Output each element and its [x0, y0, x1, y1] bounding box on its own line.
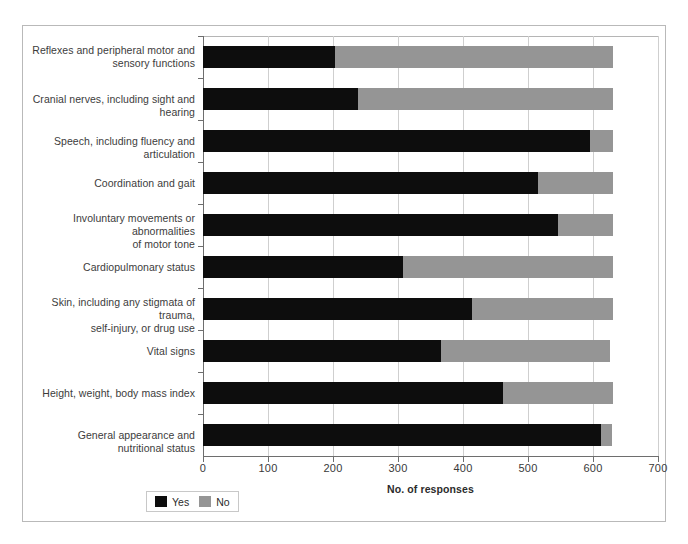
bar-segment-yes[interactable]	[203, 172, 538, 194]
bar-segment-yes[interactable]	[203, 46, 335, 68]
category-label: Cranial nerves, including sight and hear…	[30, 93, 195, 119]
bar-segment-yes[interactable]	[203, 214, 558, 236]
y-tick-mark	[198, 120, 204, 121]
y-tick-mark	[198, 288, 204, 289]
y-tick-mark	[198, 162, 204, 163]
bar-row: Cardiopulmonary status	[0, 246, 688, 288]
bar-row: Reflexes and peripheral motor andsensory…	[0, 36, 688, 78]
stacked-bar[interactable]	[203, 214, 613, 236]
category-label-line: sensory functions	[30, 57, 195, 70]
category-label-line: Involuntary movements or abnormalities	[30, 212, 195, 238]
category-label-line: Reflexes and peripheral motor and	[30, 44, 195, 57]
category-label: General appearance and nutritional statu…	[30, 429, 195, 455]
legend-item[interactable]: Yes	[155, 496, 189, 508]
category-label: Height, weight, body mass index	[30, 387, 195, 400]
x-tick-label: 700	[649, 462, 668, 474]
category-label: Vital signs	[30, 345, 195, 358]
category-label: Speech, including fluency and articulati…	[30, 135, 195, 161]
legend-swatch-icon	[199, 496, 211, 507]
bar-segment-no[interactable]	[590, 130, 613, 152]
category-label-line: Speech, including fluency and articulati…	[30, 135, 195, 161]
y-tick-mark	[198, 36, 204, 37]
x-tick-label: 500	[519, 462, 538, 474]
category-label-line: Height, weight, body mass index	[30, 387, 195, 400]
x-tick-label: 300	[389, 462, 408, 474]
plot-axis-x	[203, 456, 659, 457]
bar-segment-yes[interactable]	[203, 298, 472, 320]
bar-row: Skin, including any stigmata of trauma,s…	[0, 288, 688, 330]
category-label: Cardiopulmonary status	[30, 261, 195, 274]
legend-label: Yes	[172, 496, 189, 508]
stacked-bar[interactable]	[203, 46, 613, 68]
x-tick-label: 100	[259, 462, 278, 474]
chart-screenshot: 0100200300400500600700 No. of responses …	[0, 0, 688, 544]
bar-segment-no[interactable]	[601, 424, 612, 446]
category-label-line: Vital signs	[30, 345, 195, 358]
bar-segment-yes[interactable]	[203, 88, 358, 110]
y-tick-mark	[198, 372, 204, 373]
y-tick-mark	[198, 330, 204, 331]
bar-segment-no[interactable]	[441, 340, 610, 362]
stacked-bar[interactable]	[203, 424, 612, 446]
chart-legend: YesNo	[146, 491, 239, 512]
category-label: Coordination and gait	[30, 177, 195, 190]
bar-segment-yes[interactable]	[203, 424, 601, 446]
x-tick-label: 0	[200, 462, 206, 474]
bar-segment-no[interactable]	[558, 214, 613, 236]
bar-segment-no[interactable]	[403, 256, 613, 278]
stacked-bar[interactable]	[203, 88, 613, 110]
legend-item[interactable]: No	[199, 496, 229, 508]
x-axis-title: No. of responses	[203, 483, 658, 495]
bar-segment-no[interactable]	[358, 88, 613, 110]
stacked-bar[interactable]	[203, 256, 613, 278]
bar-segment-no[interactable]	[538, 172, 613, 194]
stacked-bar[interactable]	[203, 130, 613, 152]
y-tick-mark	[198, 414, 204, 415]
bar-row: Vital signs	[0, 330, 688, 372]
bar-row: Coordination and gait	[0, 162, 688, 204]
x-tick-label: 600	[584, 462, 603, 474]
bar-row: Speech, including fluency and articulati…	[0, 120, 688, 162]
bar-row: General appearance and nutritional statu…	[0, 414, 688, 456]
category-label-line: General appearance and nutritional statu…	[30, 429, 195, 455]
y-tick-mark	[198, 246, 204, 247]
category-label-line: Skin, including any stigmata of trauma,	[30, 296, 195, 322]
stacked-bar[interactable]	[203, 298, 613, 320]
stacked-bar[interactable]	[203, 340, 610, 362]
bar-row: Cranial nerves, including sight and hear…	[0, 78, 688, 120]
bar-segment-yes[interactable]	[203, 382, 503, 404]
category-label-line: Cardiopulmonary status	[30, 261, 195, 274]
bar-row: Height, weight, body mass index	[0, 372, 688, 414]
category-label: Reflexes and peripheral motor andsensory…	[30, 44, 195, 70]
x-tick-label: 400	[454, 462, 473, 474]
bar-row: Involuntary movements or abnormalitiesof…	[0, 204, 688, 246]
stacked-bar[interactable]	[203, 382, 613, 404]
y-tick-mark	[198, 204, 204, 205]
stacked-bar[interactable]	[203, 172, 613, 194]
bar-segment-no[interactable]	[335, 46, 613, 68]
bar-segment-yes[interactable]	[203, 256, 403, 278]
category-label-line: Cranial nerves, including sight and hear…	[30, 93, 195, 119]
x-tick-label: 200	[324, 462, 343, 474]
legend-swatch-icon	[155, 496, 167, 507]
bar-segment-no[interactable]	[472, 298, 613, 320]
bar-segment-yes[interactable]	[203, 340, 441, 362]
category-label-line: Coordination and gait	[30, 177, 195, 190]
bar-segment-no[interactable]	[503, 382, 613, 404]
bar-segment-yes[interactable]	[203, 130, 590, 152]
legend-label: No	[216, 496, 229, 508]
y-tick-mark	[198, 78, 204, 79]
